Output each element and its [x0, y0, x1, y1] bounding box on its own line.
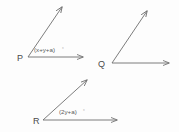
angle-r-group: R (2y+a) °: [33, 80, 117, 126]
vertex-label-p: P: [17, 53, 23, 63]
angle-measure-p: (x+y+a): [34, 46, 55, 53]
vertex-label-r: R: [33, 116, 40, 126]
degree-symbol-r: °: [83, 108, 85, 113]
angle-q-group: Q: [98, 11, 169, 69]
angle-measure-r: (2y+a): [59, 108, 77, 115]
vertex-label-q: Q: [98, 59, 105, 69]
ray-q-diagonal: [112, 11, 147, 63]
degree-symbol-p: °: [62, 46, 64, 51]
angle-p-group: P (x+y+a) °: [17, 7, 83, 63]
angle-diagram-svg: P (x+y+a) ° Q R (2y+a) °: [0, 0, 179, 132]
geometry-figure: P (x+y+a) ° Q R (2y+a) °: [0, 0, 179, 132]
